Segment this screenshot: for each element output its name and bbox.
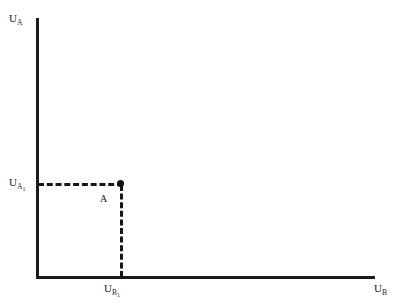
- data-point-a-marker: [117, 180, 124, 187]
- y-tick-base: U: [9, 176, 17, 188]
- x-axis-title: UB: [374, 283, 387, 294]
- y-tick-subscript: A1: [17, 182, 25, 191]
- x-tick-base: U: [104, 282, 112, 294]
- data-point-a-label: A: [100, 194, 107, 204]
- x-tick-subscript: B1: [112, 288, 120, 297]
- x-axis: [36, 276, 375, 279]
- y-tick-subscript-index: 1: [22, 186, 25, 192]
- utility-frontier-diagram: UA UB UA1 UB1 A: [0, 0, 393, 304]
- x-axis-title-subscript: B: [382, 288, 387, 297]
- vertical-dashed-guide-line: [120, 185, 123, 277]
- x-tick-subscript-index: 1: [117, 292, 120, 298]
- y-axis-tick-label: UA1: [9, 177, 25, 188]
- horizontal-dashed-guide-line: [38, 183, 123, 186]
- x-axis-tick-label: UB1: [104, 283, 120, 294]
- y-axis-title-subscript: A: [17, 18, 22, 27]
- y-axis: [36, 18, 39, 279]
- x-axis-title-base: U: [374, 282, 382, 294]
- y-axis-title: UA: [9, 13, 22, 24]
- y-axis-title-base: U: [9, 12, 17, 24]
